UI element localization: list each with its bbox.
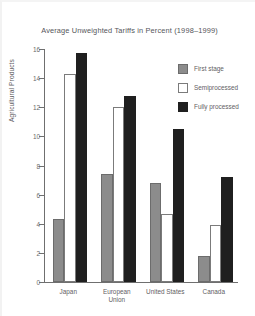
- legend-label-semiprocessed: Semiprocessed: [194, 84, 238, 91]
- y-tick-label: 12: [33, 104, 40, 111]
- y-tick-label: 10: [33, 133, 40, 140]
- bar: [198, 256, 210, 282]
- y-tick-label: 16: [33, 46, 40, 53]
- bar: [76, 53, 88, 282]
- x-axis-line: [44, 282, 238, 283]
- bar: [64, 74, 76, 282]
- legend-item-fully-processed: Fully processed: [178, 97, 254, 116]
- bar: [124, 96, 136, 282]
- chart-legend: First stage Semiprocessed Fully processe…: [178, 59, 254, 116]
- bar: [113, 107, 125, 282]
- x-axis-label: Canada: [182, 288, 247, 296]
- y-axis-label: Agricultural Products: [8, 59, 15, 122]
- bar-group: [101, 49, 136, 282]
- legend-item-first-stage: First stage: [178, 59, 254, 78]
- y-tick-label: 6: [36, 191, 40, 198]
- bar-group: [53, 49, 88, 282]
- bar: [53, 219, 65, 282]
- chart-figure: Average Unweighted Tariffs in Percent (1…: [0, 0, 255, 316]
- bar: [221, 177, 233, 282]
- chart-title: Average Unweighted Tariffs in Percent (1…: [2, 26, 255, 35]
- y-tick-label: 14: [33, 75, 40, 82]
- legend-label-fully-processed: Fully processed: [194, 103, 239, 110]
- bar: [173, 129, 185, 282]
- y-tick-label: 0: [36, 279, 40, 286]
- y-tick-label: 4: [36, 220, 40, 227]
- legend-swatch-fully-processed: [178, 102, 188, 112]
- legend-item-semiprocessed: Semiprocessed: [178, 78, 254, 97]
- y-tick-label: 2: [36, 249, 40, 256]
- bar: [161, 214, 173, 282]
- bar: [101, 174, 113, 282]
- y-tick-label: 8: [36, 162, 40, 169]
- legend-swatch-first-stage: [178, 64, 188, 74]
- bar: [150, 183, 162, 282]
- legend-label-first-stage: First stage: [194, 65, 224, 72]
- bar: [210, 225, 222, 282]
- legend-swatch-semiprocessed: [178, 83, 188, 93]
